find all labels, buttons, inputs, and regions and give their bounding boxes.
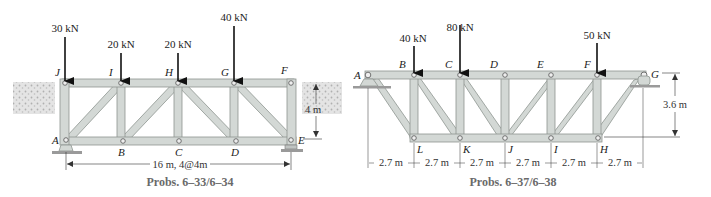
joint-label-G: G (221, 66, 229, 78)
left-truss: 30 kN 20 kN 20 kN 40 kN J I H G F A B C … (13, 11, 342, 189)
joint-label-G: G (651, 68, 659, 80)
joint-label-J: J (508, 143, 514, 155)
span-dimension-label: 16 m, 4@4m (153, 159, 208, 170)
joint-label-F: F (583, 58, 591, 70)
roller-support-E (281, 145, 303, 152)
loads (65, 26, 234, 81)
load-label-I: 20 kN (107, 38, 134, 50)
joint-label-F: F (280, 64, 288, 76)
joint-label-I: I (553, 143, 559, 155)
load-label-J: 30 kN (51, 22, 78, 34)
joint-label-E: E (536, 58, 544, 70)
load-label-B: 40 kN (399, 32, 426, 44)
joint-label-K: K (462, 143, 471, 155)
load-label-F: 50 kN (583, 29, 610, 41)
joint-label-H: H (164, 66, 174, 78)
loads (414, 25, 597, 73)
panel-dim-1: 2.7 m (379, 157, 403, 168)
joint-label-A: A (353, 69, 361, 81)
joint-label-D: D (489, 58, 498, 70)
figure-caption-left: Probs. 6–33/6–34 (146, 175, 233, 189)
panel-dim-5: 2.7 m (562, 157, 586, 168)
ground-left (13, 82, 55, 114)
truss-diagrams: 30 kN 20 kN 20 kN 40 kN J I H G F A B C … (0, 0, 711, 197)
panel-dim-2: 2.7 m (425, 157, 449, 168)
load-label-G: 40 kN (220, 11, 247, 23)
joint-label-H: H (599, 143, 609, 155)
joint-label-B: B (118, 146, 125, 158)
right-truss: 40 kN 80 kN 50 kN A B C D E F G L K J I … (353, 21, 687, 189)
joint-label-E: E (297, 134, 305, 146)
joint-label-A: A (51, 134, 59, 146)
height-dimension-label: 3.6 m (663, 99, 687, 110)
joint-label-D: D (230, 146, 239, 158)
panel-dim-3: 2.7 m (470, 157, 494, 168)
panel-dim-4: 2.7 m (516, 157, 540, 168)
joint-label-C: C (175, 146, 183, 158)
joint-label-I: I (108, 66, 114, 78)
truss-members (365, 71, 646, 142)
joint-label-C: C (445, 58, 453, 70)
panel-dim-6: 2.7 m (608, 157, 632, 168)
joint-label-B: B (399, 58, 406, 70)
joint-label-L: L (416, 143, 423, 155)
load-label-H: 20 kN (164, 38, 191, 50)
panel-dimension-labels: 2.7 m 2.7 m 2.7 m 2.7 m 2.7 m 2.7 m (374, 157, 637, 168)
height-dimension-label: 4 m (305, 104, 321, 115)
joint-label-J: J (55, 66, 61, 78)
load-label-C: 80 kN (446, 21, 473, 33)
figure-caption-right: Probs. 6–37/6–38 (469, 175, 556, 189)
pin-support-A (52, 145, 82, 154)
truss-members (60, 79, 296, 145)
